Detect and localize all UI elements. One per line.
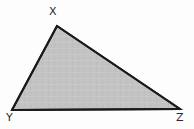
triangle-shape — [12, 26, 180, 110]
figure-canvas: X Y Z — [0, 0, 194, 129]
edge-yz — [12, 109, 180, 110]
vertex-label-x: X — [49, 6, 57, 17]
triangle-diagram — [0, 0, 194, 129]
vertex-label-y: Y — [6, 112, 13, 123]
vertex-label-z: Z — [176, 112, 184, 123]
